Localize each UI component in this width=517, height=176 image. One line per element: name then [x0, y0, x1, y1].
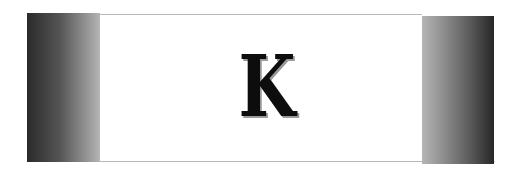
- left-gradient-panel: [27, 13, 100, 162]
- right-gradient-panel: [422, 16, 494, 164]
- top-rule: [100, 14, 422, 15]
- letter-glyph: K: [239, 42, 286, 132]
